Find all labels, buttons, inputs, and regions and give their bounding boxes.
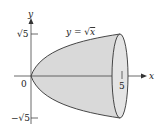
x-tick-label: 5 — [119, 81, 125, 91]
paraboloid-diagram: y x 0 5 √5 −√5 y = √x — [0, 0, 160, 131]
curve-label: y = √x — [65, 27, 95, 37]
y-axis-label: y — [27, 9, 34, 19]
origin-label: 0 — [21, 79, 27, 89]
y-tick-bottom-label: −√5 — [11, 113, 30, 123]
x-axis-label: x — [149, 71, 154, 81]
end-cap-ellipse — [112, 34, 128, 118]
y-tick-top-label: √5 — [17, 29, 29, 39]
x-axis-arrow-icon — [141, 74, 147, 79]
